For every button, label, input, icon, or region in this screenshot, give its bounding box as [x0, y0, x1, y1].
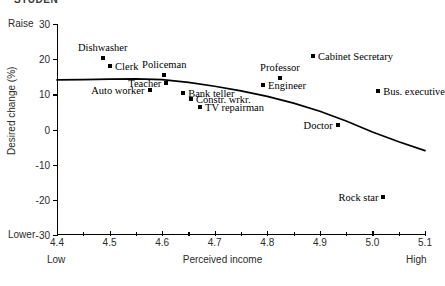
- y-tick-label: -20: [36, 194, 50, 205]
- y-axis-title: Desired change (%): [6, 67, 17, 155]
- data-point-label: Doctor: [304, 119, 333, 130]
- data-point-marker: [381, 195, 385, 199]
- x-tick-label: 4.9: [313, 237, 327, 248]
- y-tick-label: 30: [39, 19, 50, 30]
- data-point-label: Policeman: [142, 59, 186, 70]
- x-tick: [425, 231, 426, 236]
- data-point-marker: [376, 89, 380, 93]
- y-tick-label: 10: [39, 89, 50, 100]
- x-tick-label: 4.4: [50, 237, 64, 248]
- x-tick-label: 4.7: [208, 237, 222, 248]
- data-point-label: Engineer: [268, 80, 306, 91]
- data-point-marker: [148, 88, 152, 92]
- x-tick-label: 4.6: [155, 237, 169, 248]
- clipped-heading: STUDEN: [14, 0, 58, 5]
- data-point-label: Clerk: [115, 60, 138, 71]
- data-point-marker: [164, 81, 168, 85]
- chart-page: STUDEN Raise Lower Low High Desired chan…: [0, 0, 445, 286]
- y-tick-label: 0: [44, 124, 50, 135]
- x-tick-label: 5.0: [365, 237, 379, 248]
- data-point-marker: [162, 73, 166, 77]
- data-point-label: Dishwasher: [78, 42, 128, 53]
- data-point-marker: [198, 105, 202, 109]
- data-point-label: Cabinet Secretary: [318, 51, 393, 62]
- data-point-label: Professor: [260, 62, 300, 73]
- data-point-marker: [336, 123, 340, 127]
- data-point-marker: [101, 56, 105, 60]
- y-tick-label: -10: [36, 159, 50, 170]
- plot-area: 3020100-10-20-30 4.44.54.64.74.84.95.05.…: [57, 24, 425, 235]
- data-point-marker: [278, 76, 282, 80]
- x-tick-label: 4.8: [260, 237, 274, 248]
- y-tick-label: 20: [39, 54, 50, 65]
- data-point-marker: [261, 83, 265, 87]
- data-point-label: Bus. executive: [383, 85, 445, 96]
- x-tick-label: 5.1: [418, 237, 432, 248]
- data-point-marker: [189, 97, 193, 101]
- data-point-label: Rock star: [339, 192, 379, 203]
- data-point-marker: [181, 91, 185, 95]
- y-axis-low-label: Lower: [8, 229, 35, 240]
- data-point-label: TV repairman: [205, 101, 264, 112]
- y-tick-label: -30: [36, 230, 50, 241]
- x-axis-title: Perceived income: [0, 254, 445, 265]
- data-point-label: Auto worker: [91, 85, 144, 96]
- y-axis-high-label: Raise: [8, 18, 34, 29]
- x-tick-label: 4.5: [103, 237, 117, 248]
- data-point-marker: [311, 54, 315, 58]
- data-point-marker: [108, 64, 112, 68]
